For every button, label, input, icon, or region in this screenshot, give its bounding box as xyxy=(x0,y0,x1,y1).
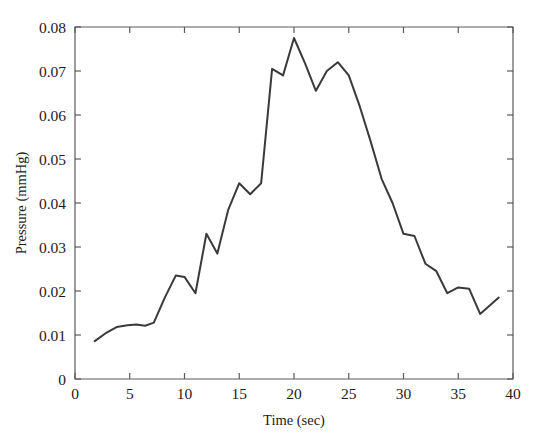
y-tick-label: 0.07 xyxy=(39,63,66,80)
y-tick-label: 0.02 xyxy=(39,283,66,300)
chart-background xyxy=(0,0,536,438)
x-axis-title: Time (sec) xyxy=(263,412,325,429)
y-tick-label: 0.01 xyxy=(39,327,66,344)
y-tick-label: 0.04 xyxy=(39,195,66,212)
x-tick-label: 40 xyxy=(505,385,521,402)
x-tick-label: 20 xyxy=(286,385,302,402)
y-tick-label: 0.03 xyxy=(39,239,66,256)
x-tick-label: 15 xyxy=(232,385,248,402)
y-tick-label: 0.08 xyxy=(39,19,66,36)
y-axis-tick-labels: 00.010.020.030.040.050.060.070.08 xyxy=(39,19,66,388)
pressure-time-line-chart: 0510152025303540 00.010.020.030.040.050.… xyxy=(0,0,536,438)
y-tick-label: 0.06 xyxy=(39,107,66,124)
x-tick-label: 0 xyxy=(71,385,79,402)
y-axis-title: Pressure (mmHg) xyxy=(13,151,30,254)
x-tick-label: 10 xyxy=(177,385,193,402)
x-tick-label: 5 xyxy=(126,385,134,402)
chart-figure: 0510152025303540 00.010.020.030.040.050.… xyxy=(0,0,536,438)
x-tick-label: 30 xyxy=(396,385,412,402)
x-tick-label: 25 xyxy=(341,385,357,402)
x-tick-label: 35 xyxy=(451,385,467,402)
y-tick-label: 0.05 xyxy=(39,151,66,168)
y-tick-label: 0 xyxy=(58,371,66,388)
